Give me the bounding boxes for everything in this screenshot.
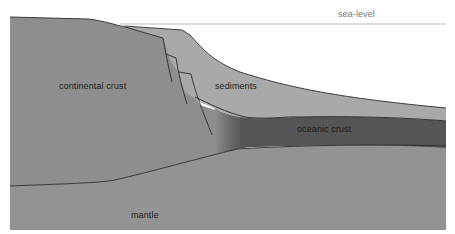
sea-level-label: sea-level [338,9,375,19]
continental-crust-label: continental crust [59,81,126,91]
mantle-label: mantle [131,210,159,220]
cross-section-diagram: sea-level continental crust sediments oc… [0,0,455,234]
diagram-canvas [0,0,455,234]
oceanic-crust-label: oceanic crust [297,124,351,134]
sediments-label: sediments [215,81,257,91]
